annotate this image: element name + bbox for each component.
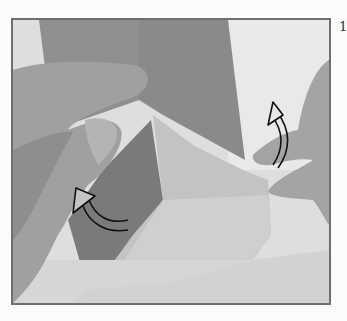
origami-photo	[13, 20, 329, 303]
photo-frame	[11, 18, 331, 305]
step-number: 1	[339, 20, 347, 33]
